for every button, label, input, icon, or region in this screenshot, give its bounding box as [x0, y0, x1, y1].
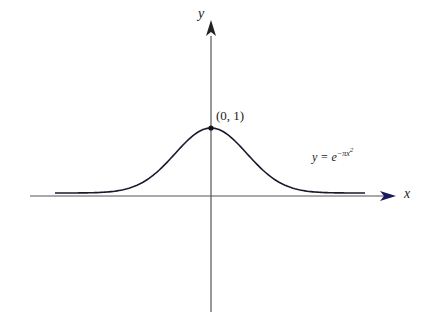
y-axis-label: y [198, 6, 204, 22]
gaussian-plot [0, 0, 436, 329]
curve-label: y = e−πx2 [312, 146, 353, 165]
point-label: (0, 1) [216, 108, 244, 124]
x-axis-label: x [404, 186, 410, 202]
curve-label-base: y = e [312, 150, 337, 164]
curve-label-exponent: −πx [337, 149, 350, 158]
y-axis-arrow-icon [206, 20, 216, 36]
curve-label-power: 2 [350, 146, 354, 154]
peak-point [208, 125, 213, 130]
